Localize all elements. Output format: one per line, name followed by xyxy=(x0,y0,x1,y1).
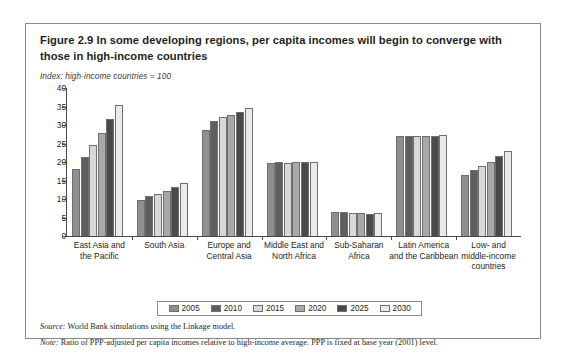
bar xyxy=(106,119,114,236)
legend-swatch xyxy=(295,305,305,312)
bar xyxy=(210,121,218,236)
bar xyxy=(439,135,447,236)
bar xyxy=(245,108,253,236)
bar xyxy=(115,105,123,236)
bar xyxy=(275,162,283,236)
legend-swatch xyxy=(337,305,347,312)
bar xyxy=(495,156,503,236)
bar xyxy=(413,136,421,236)
legend-item[interactable]: 2015 xyxy=(253,304,284,313)
bar xyxy=(227,115,235,236)
bar xyxy=(405,136,413,236)
bar xyxy=(310,162,318,236)
bar xyxy=(81,157,89,236)
category-label-line: countries xyxy=(448,261,528,272)
bar-group xyxy=(72,88,123,236)
bar xyxy=(145,196,153,236)
legend-item[interactable]: 2025 xyxy=(337,304,368,313)
y-tick-mark xyxy=(62,218,66,219)
bar xyxy=(470,170,478,236)
bar xyxy=(340,212,348,236)
bar-group xyxy=(396,88,447,236)
bar xyxy=(504,151,512,236)
bar xyxy=(349,213,357,236)
legend-item[interactable]: 2020 xyxy=(295,304,326,313)
source-text: World Bank simulations using the Linkage… xyxy=(66,322,236,331)
y-tick-mark xyxy=(62,125,66,126)
legend-label: 2020 xyxy=(308,304,326,313)
y-tick-mark xyxy=(62,199,66,200)
category-label: Low- andmiddle-incomecountries xyxy=(448,240,528,272)
bar-group xyxy=(331,88,382,236)
bar xyxy=(219,117,227,236)
bar xyxy=(163,191,171,237)
source-note: Source: World Bank simulations using the… xyxy=(40,322,235,331)
category-label-line: Low- and xyxy=(448,240,528,251)
bar-group xyxy=(202,88,253,236)
bar xyxy=(366,214,374,236)
y-tick-mark xyxy=(62,162,66,163)
index-note: Index: high-income countries = 100 xyxy=(40,72,171,81)
method-note: Note: Ratio of PPP-adjusted per capita i… xyxy=(40,338,438,347)
legend-swatch xyxy=(169,305,179,312)
legend-label: 2030 xyxy=(393,304,411,313)
page-title: Figure 2.9 In some developing regions, p… xyxy=(40,33,510,64)
bar xyxy=(422,136,430,236)
bar xyxy=(301,162,309,236)
category-label-line: the Pacific xyxy=(59,251,139,262)
bar xyxy=(331,212,339,236)
legend-item[interactable]: 2030 xyxy=(380,304,411,313)
note-label: Note: xyxy=(40,338,59,347)
bar xyxy=(171,187,179,236)
bar xyxy=(267,163,275,236)
legend-label: 2005 xyxy=(182,304,200,313)
bar xyxy=(180,183,188,236)
bar xyxy=(396,136,404,236)
legend-swatch xyxy=(253,305,263,312)
bar xyxy=(154,194,162,236)
bar xyxy=(478,166,486,236)
source-label: Source: xyxy=(40,322,66,331)
bar xyxy=(236,112,244,236)
bar xyxy=(72,169,80,236)
bar-group xyxy=(137,88,188,236)
legend-label: 2010 xyxy=(224,304,242,313)
legend-label: 2025 xyxy=(350,304,368,313)
y-tick-mark xyxy=(62,236,66,237)
category-label-line: middle-income xyxy=(448,251,528,262)
y-tick-mark xyxy=(62,144,66,145)
bar xyxy=(461,175,469,236)
y-tick-mark xyxy=(62,107,66,108)
bars-layer xyxy=(67,88,521,236)
bar xyxy=(357,213,365,236)
chart-plot-area: 0510152025303540 East Asia andthe Pacifi… xyxy=(40,86,530,258)
legend-swatch xyxy=(211,305,221,312)
bar xyxy=(202,130,210,236)
legend-swatch xyxy=(380,305,390,312)
bar xyxy=(137,200,145,236)
legend-item[interactable]: 2005 xyxy=(169,304,200,313)
bar xyxy=(374,213,382,236)
bar xyxy=(487,162,495,236)
legend-item[interactable]: 2010 xyxy=(211,304,242,313)
figure-card: Figure 2.9 In some developing regions, p… xyxy=(25,23,541,339)
x-axis-line xyxy=(66,236,521,237)
bar xyxy=(292,162,300,236)
bar xyxy=(98,133,106,236)
bar xyxy=(89,145,97,236)
bar-group xyxy=(267,88,318,236)
legend-label: 2015 xyxy=(266,304,284,313)
chart-legend: 200520102015202020252030 xyxy=(157,301,422,316)
y-tick-mark xyxy=(62,181,66,182)
y-tick-mark xyxy=(62,88,66,89)
bar xyxy=(284,163,292,236)
bar-group xyxy=(461,88,512,236)
note-text: Ratio of PPP-adjusted per capita incomes… xyxy=(59,338,438,347)
bar xyxy=(431,136,439,236)
